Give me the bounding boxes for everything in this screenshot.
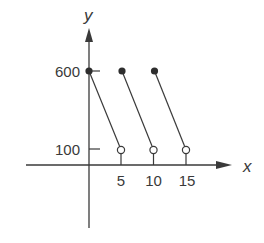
- y-tick-label-600: 600: [55, 63, 80, 80]
- segment-3: [151, 67, 190, 153]
- segment-1: [85, 67, 124, 153]
- x-axis-arrow-icon: [216, 161, 232, 169]
- open-point-icon: [150, 146, 157, 153]
- x-axis-label: x: [242, 157, 252, 176]
- y-tick-label-100: 100: [55, 141, 80, 158]
- x-tick-label-10: 10: [145, 172, 162, 189]
- open-point-icon: [182, 146, 189, 153]
- closed-point-icon: [151, 67, 158, 74]
- y-axis-label: y: [83, 6, 94, 25]
- y-axis-arrow-icon: [85, 28, 93, 42]
- step-function-graph: y x 600 100 5 10 15: [0, 0, 264, 243]
- segment-2: [118, 67, 157, 153]
- closed-point-icon: [85, 67, 92, 74]
- x-tick-label-5: 5: [117, 172, 125, 189]
- open-point-icon: [117, 146, 124, 153]
- x-tick-label-15: 15: [179, 172, 196, 189]
- closed-point-icon: [118, 67, 125, 74]
